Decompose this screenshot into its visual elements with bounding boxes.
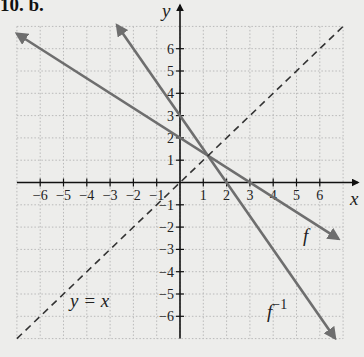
x-tick-label: 1 [200,188,207,203]
y-tick-label: −1 [159,198,174,213]
y-tick-label: 5 [167,64,174,79]
y-tick-label: −2 [159,220,174,235]
x-tick-label: 3 [246,188,253,203]
y-tick-label: 6 [167,42,174,57]
y-tick-label: −3 [159,242,174,257]
finv-label: f−1 [267,297,287,322]
y-tick-label: −4 [159,265,174,280]
y-equals-x-label: y = x [68,290,110,311]
x-tick-label: 5 [293,188,300,203]
f-label: f [303,225,311,246]
x-tick-label: −5 [56,188,71,203]
x-tick-label: −4 [79,188,94,203]
y-axis-label: y [160,0,171,21]
x-axis-label: x [349,188,359,209]
x-tick-label: 6 [316,188,323,203]
y-tick-label: −6 [159,309,174,324]
y-tick-label: −5 [159,287,174,302]
y-tick-label: 1 [167,153,174,168]
x-tick-label: −6 [33,188,48,203]
finv-label-sup: −1 [272,297,287,312]
series-line-f [17,34,339,239]
x-tick-label: 2 [223,188,230,203]
axes [17,5,358,339]
x-tick-label: −3 [103,188,118,203]
graph: −6−5−4−3−2−1123456−6−5−4−3−2−1123456 x y… [0,0,364,357]
y-tick-label: 3 [167,109,174,124]
x-tick-label: −2 [126,188,141,203]
